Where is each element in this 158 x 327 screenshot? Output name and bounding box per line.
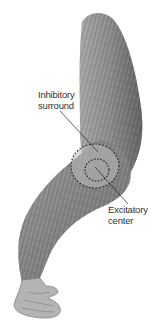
- inhibitory-label-line2: surround: [38, 100, 75, 111]
- excitatory-label-line1: Excitatory: [108, 204, 148, 215]
- hairy-arm-illustration: [0, 0, 158, 327]
- excitatory-center-label: Excitatory center: [108, 204, 148, 226]
- excitatory-label-line2: center: [108, 215, 148, 226]
- inhibitory-surround-label: Inhibitory surround: [38, 89, 75, 111]
- inhibitory-label-line1: Inhibitory: [38, 89, 75, 100]
- receptive-field-figure: Inhibitory surround Excitatory center: [0, 0, 158, 327]
